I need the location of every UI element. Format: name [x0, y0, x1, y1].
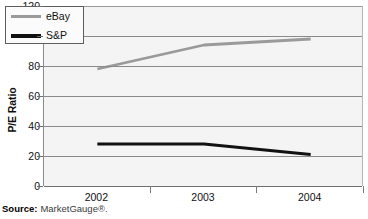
chart-legend: eBay S&P — [5, 6, 84, 44]
y-tick-mark-60 — [37, 96, 43, 97]
series-line-s-p — [97, 144, 310, 155]
legend-label-snp: S&P — [46, 29, 67, 41]
x-tick-mark-end — [363, 186, 364, 193]
gridline-60 — [44, 96, 362, 97]
source-label: Source: — [2, 203, 37, 214]
x-tick-label-2004: 2004 — [270, 191, 350, 203]
chart-figure: P/E Ratio 020406080100120 eBay S&P Sourc… — [0, 0, 368, 219]
y-tick-mark-120 — [37, 6, 43, 7]
gridline-100 — [44, 36, 362, 37]
y-tick-mark-100 — [37, 36, 43, 37]
gridline-0 — [44, 186, 362, 187]
gridline-120 — [44, 6, 362, 7]
plot-area — [43, 6, 363, 186]
x-tick-mark-2 — [256, 186, 257, 193]
y-tick-mark-20 — [37, 156, 43, 157]
series-line-ebay — [97, 39, 310, 69]
gridline-20 — [44, 156, 362, 157]
x-tick-mark-1 — [150, 186, 151, 193]
source-text: MarketGauge®. — [40, 203, 107, 214]
x-tick-label-2002: 2002 — [56, 191, 136, 203]
legend-swatch-ebay-icon — [11, 15, 41, 18]
gridline-40 — [44, 126, 362, 127]
x-tick-label-2003: 2003 — [163, 191, 243, 203]
y-tick-mark-80 — [37, 66, 43, 67]
legend-item-snp: S&P — [6, 26, 83, 45]
y-tick-mark-0 — [37, 186, 43, 187]
gridline-80 — [44, 66, 362, 67]
y-tick-mark-40 — [37, 126, 43, 127]
source-note: Source:MarketGauge®. — [2, 203, 108, 214]
legend-label-ebay: eBay — [46, 10, 70, 22]
legend-item-ebay: eBay — [6, 7, 83, 26]
